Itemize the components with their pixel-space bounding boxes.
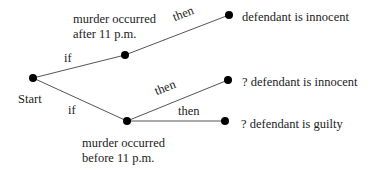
edge-label-start-after: if bbox=[64, 51, 72, 66]
node-innocent-certain bbox=[225, 11, 233, 19]
label-innocent-uncertain: ? defendant is innocent bbox=[242, 75, 358, 90]
node-innocent-uncertain bbox=[224, 76, 232, 84]
edge-label-start-before: if bbox=[68, 103, 76, 118]
node-start bbox=[29, 74, 37, 82]
label-start: Start bbox=[18, 92, 42, 107]
edge-start-before bbox=[33, 78, 127, 121]
label-after: murder occurred after 11 p.m. bbox=[73, 12, 156, 42]
node-after bbox=[121, 51, 129, 59]
label-before-line1: murder occurred bbox=[82, 136, 165, 151]
label-innocent-certain: defendant is innocent bbox=[242, 10, 349, 25]
node-guilty-uncertain bbox=[221, 117, 229, 125]
label-before-line2: before 11 p.m. bbox=[82, 151, 165, 166]
label-guilty-uncertain: ? defendant is guilty bbox=[241, 117, 343, 132]
label-after-line2: after 11 p.m. bbox=[73, 27, 156, 42]
edge-label-before-guilty: then bbox=[178, 104, 200, 119]
label-before: murder occurred before 11 p.m. bbox=[82, 136, 165, 166]
label-after-line1: murder occurred bbox=[73, 12, 156, 27]
edge-start-after bbox=[33, 55, 125, 78]
node-before bbox=[123, 117, 131, 125]
